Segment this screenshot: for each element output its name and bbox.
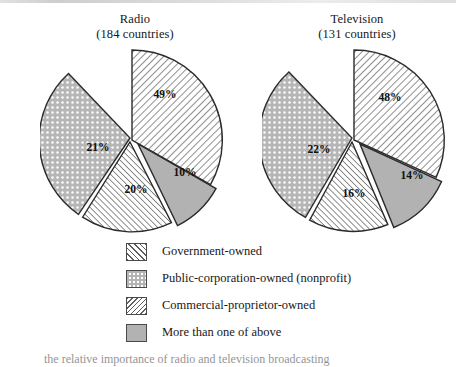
legend-label-public-corporation-owned: Public-corporation-owned (nonprofit) — [162, 271, 351, 286]
legend-item-public-corporation-owned: Public-corporation-owned (nonprofit) — [126, 265, 351, 292]
legend-swatch-public-corporation-owned — [126, 270, 147, 288]
television-value-government-owned: 48% — [379, 91, 402, 103]
chart-legend: Government-owned Public-corporation-owne… — [126, 238, 351, 346]
television-value-more-than-one: 14% — [401, 169, 424, 181]
legend-label-more-than-one: More than one of above — [162, 325, 281, 340]
radio-pie-svg: 49% 21% 20% 10% — [40, 45, 230, 235]
radio-title-subtitle: (184 countries) — [75, 27, 195, 42]
legend-label-commercial-proprietor-owned: Commercial-proprietor-owned — [162, 298, 315, 313]
radio-title-main: Radio — [120, 12, 150, 26]
television-pie-svg: 48% 22% 16% 14% — [262, 45, 452, 235]
legend-swatch-government-owned — [126, 243, 147, 261]
legend-swatch-more-than-one — [126, 324, 147, 342]
television-title-subtitle: (131 countries) — [297, 27, 417, 42]
figure-caption: the relative importance of radio and tel… — [44, 352, 444, 366]
broadcast-ownership-figure: Radio (184 countries) Television (131 co… — [0, 0, 456, 367]
radio-value-government-owned: 49% — [154, 88, 177, 100]
radio-slice-government-owned — [132, 50, 222, 185]
television-value-public-corporation-owned: 22% — [308, 143, 331, 155]
radio-chart-title: Radio (184 countries) — [75, 12, 195, 42]
radio-pie-chart: 49% 21% 20% 10% — [40, 45, 230, 235]
legend-item-commercial-proprietor-owned: Commercial-proprietor-owned — [126, 292, 351, 319]
television-title-main: Television — [331, 12, 384, 26]
legend-label-government-owned: Government-owned — [162, 244, 262, 259]
television-value-commercial-proprietor-owned: 16% — [343, 187, 366, 199]
legend-item-more-than-one: More than one of above — [126, 319, 351, 346]
radio-value-public-corporation-owned: 21% — [87, 141, 110, 153]
legend-swatch-commercial-proprietor-owned — [126, 297, 147, 315]
television-pie-chart: 48% 22% 16% 14% — [262, 45, 452, 235]
television-chart-title: Television (131 countries) — [297, 12, 417, 42]
radio-value-commercial-proprietor-owned: 20% — [125, 183, 148, 195]
radio-value-more-than-one: 10% — [174, 166, 197, 178]
legend-item-government-owned: Government-owned — [126, 238, 351, 265]
